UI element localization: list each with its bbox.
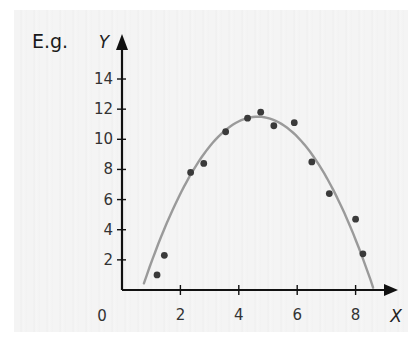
- y-axis-arrow-icon: [116, 34, 128, 50]
- y-tick-label: 2: [103, 251, 113, 269]
- x-tick-label: 6: [292, 306, 302, 324]
- data-point: [154, 272, 161, 279]
- fit-curve: [144, 117, 373, 288]
- x-axis-label: X: [389, 306, 402, 326]
- data-point: [187, 169, 194, 176]
- axes: [116, 34, 398, 296]
- x-tick-label: 4: [234, 306, 244, 324]
- fit-curve-path: [144, 117, 373, 288]
- axis-labels: 246824681012140XY: [94, 32, 402, 326]
- y-tick-label: 8: [103, 160, 113, 178]
- origin-label: 0: [97, 307, 107, 325]
- data-point: [257, 109, 264, 116]
- y-tick-label: 10: [94, 130, 113, 148]
- data-point: [244, 115, 251, 122]
- data-point: [222, 128, 229, 135]
- data-point: [270, 122, 277, 129]
- x-tick-label: 8: [351, 306, 361, 324]
- data-point: [161, 252, 168, 259]
- data-point: [200, 160, 207, 167]
- data-point: [326, 190, 333, 197]
- y-tick-label: 12: [94, 100, 113, 118]
- data-point: [352, 216, 359, 223]
- x-axis-arrow-icon: [384, 284, 398, 296]
- y-tick-label: 4: [103, 221, 113, 239]
- y-tick-label: 6: [103, 191, 113, 209]
- x-tick-label: 2: [176, 306, 186, 324]
- data-point: [291, 119, 298, 126]
- y-tick-label: 14: [94, 70, 113, 88]
- data-point: [360, 250, 367, 257]
- data-point: [308, 159, 315, 166]
- example-label: E.g.: [32, 30, 68, 52]
- y-axis-label: Y: [99, 32, 111, 52]
- scatter-chart: E.g. 246824681012140XY: [0, 0, 414, 345]
